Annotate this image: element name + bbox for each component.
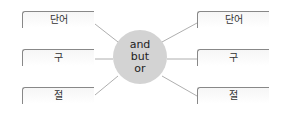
right-box-word-label: 단어 (225, 14, 243, 25)
left-box-clause-label: 절 (54, 90, 63, 101)
conjunction-circle: and but or (113, 30, 167, 84)
right-box-phrase: 구 (197, 49, 269, 66)
left-box-word: 단어 (22, 11, 94, 28)
right-box-phrase-label: 구 (229, 52, 238, 63)
left-box-phrase: 구 (22, 49, 94, 66)
left-box-phrase-label: 구 (54, 52, 63, 63)
right-box-clause-label: 절 (229, 90, 238, 101)
right-box-word: 단어 (197, 11, 269, 28)
conjunction-or: or (113, 63, 167, 75)
right-box-clause: 절 (197, 87, 269, 104)
left-box-word-label: 단어 (50, 14, 68, 25)
left-box-clause: 절 (22, 87, 94, 104)
